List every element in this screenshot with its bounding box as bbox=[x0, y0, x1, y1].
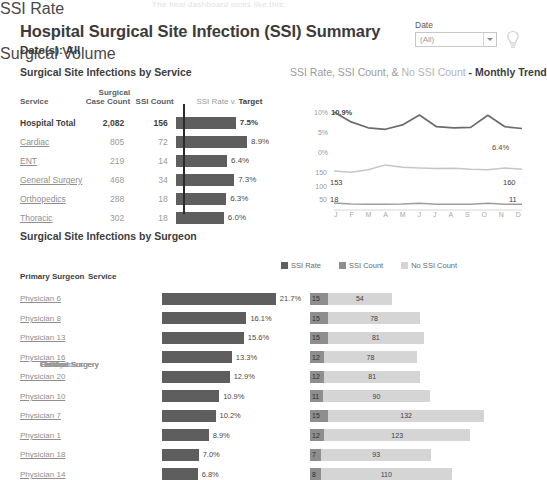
surgeon-rate-bar-cell[interactable]: 7.0% bbox=[162, 445, 310, 465]
ssi-count-label: 15 bbox=[310, 293, 328, 305]
no-ssi-count-segment[interactable]: 93 bbox=[321, 449, 431, 461]
table-row: General Surgery468347.3% bbox=[20, 170, 285, 189]
surgeon-rate-bar[interactable] bbox=[162, 312, 246, 324]
ssi-count-segment[interactable]: 12 bbox=[310, 429, 324, 441]
ssi-count-segment[interactable]: 15 bbox=[310, 312, 328, 324]
month-tick-10: N bbox=[499, 211, 504, 218]
surgeon-rate-bar[interactable] bbox=[162, 429, 209, 441]
ssi-count-segment[interactable]: 15 bbox=[310, 410, 328, 422]
month-tick-7: A bbox=[448, 211, 453, 218]
ssi-count-cell: 18 bbox=[130, 189, 174, 208]
rate-bar-cell[interactable]: 6.3% bbox=[174, 189, 285, 208]
legend-label: SSI Rate bbox=[291, 261, 321, 270]
rate-bar[interactable] bbox=[176, 136, 247, 148]
monthly-trend-chart bbox=[328, 100, 528, 220]
service-name-cell[interactable]: ENT bbox=[20, 151, 84, 170]
rate-bar[interactable] bbox=[176, 117, 236, 129]
no-ssi-count-label: 90 bbox=[323, 390, 430, 402]
surgeon-rate-label: 10.9% bbox=[223, 392, 244, 401]
surgeon-stacked-bar-cell[interactable]: 1554 bbox=[310, 289, 525, 309]
ssi-count-segment[interactable]: 7 bbox=[310, 449, 321, 461]
surgeon-rate-bar-cell[interactable]: 15.6% bbox=[162, 328, 310, 348]
month-tick-0: J bbox=[334, 211, 338, 218]
surgeon-rate-bar[interactable] bbox=[162, 468, 198, 480]
rate-bar-cell[interactable]: 6.0% bbox=[174, 208, 285, 227]
service-table: Service SurgicalCase Count SSI Count SSI… bbox=[20, 88, 285, 227]
rate-value-label: 6.4% bbox=[231, 156, 249, 165]
no-ssi-count-segment[interactable]: 110 bbox=[321, 468, 452, 480]
legend-item-0[interactable]: SSI Rate bbox=[281, 261, 321, 270]
legend-item-1[interactable]: SSI Count bbox=[339, 261, 383, 270]
service-name-cell[interactable]: Orthopedics bbox=[20, 189, 84, 208]
service-name-cell[interactable]: General Surgery bbox=[20, 170, 84, 189]
rate-bar-cell[interactable]: 7.5% bbox=[174, 113, 285, 132]
ssi-count-segment[interactable]: 15 bbox=[310, 293, 328, 305]
surgeon-rate-bar[interactable] bbox=[162, 410, 216, 422]
surgeon-rate-bar[interactable] bbox=[162, 332, 244, 344]
surgeon-rate-bar-cell[interactable]: 21.7% bbox=[162, 289, 310, 309]
surgeon-name-cell[interactable]: Physician 18 bbox=[20, 445, 88, 465]
surgeon-rate-label: 8.9% bbox=[213, 431, 230, 440]
surgeon-stacked-bar-cell[interactable]: 793 bbox=[310, 445, 525, 465]
surgeon-stacked-bar-cell[interactable]: 15132 bbox=[310, 406, 525, 426]
surgeon-rate-bar-cell[interactable]: 16.1% bbox=[162, 309, 310, 329]
month-tick-8: S bbox=[465, 211, 470, 218]
no-ssi-count-segment[interactable]: 78 bbox=[328, 312, 421, 324]
no-ssi-count-segment[interactable]: 81 bbox=[328, 332, 424, 344]
ssi-count-segment[interactable]: 15 bbox=[310, 332, 328, 344]
no-ssi-count-segment[interactable]: 78 bbox=[324, 351, 417, 363]
col-rate-chart-b: Target bbox=[239, 97, 263, 106]
surgeon-rate-bar[interactable] bbox=[162, 390, 219, 402]
surgeon-rate-bar[interactable] bbox=[162, 449, 199, 461]
surgeon-stacked-bar-cell[interactable]: 1190 bbox=[310, 387, 525, 407]
no-ssi-count-segment[interactable]: 90 bbox=[323, 390, 430, 402]
no-ssi-count-segment[interactable]: 132 bbox=[328, 410, 485, 422]
ssi-count-segment[interactable]: 11 bbox=[310, 390, 323, 402]
month-tick-3: A bbox=[383, 211, 388, 218]
surgeon-name-cell[interactable]: Physician 13 bbox=[20, 328, 88, 348]
lightbulb-icon[interactable] bbox=[505, 30, 521, 50]
surgeon-name-cell[interactable]: Physician 14 bbox=[20, 465, 88, 480]
surgeon-rate-bar[interactable] bbox=[162, 293, 276, 305]
surgeon-rate-bar-cell[interactable]: 10.9% bbox=[162, 387, 310, 407]
legend-item-2[interactable]: No SSI Count bbox=[401, 261, 457, 270]
surgeon-name-cell[interactable]: Physician 10 bbox=[20, 387, 88, 407]
surgeon-stacked-bar-cell[interactable]: 1278 bbox=[310, 348, 525, 368]
rate-bar-cell[interactable]: 8.9% bbox=[174, 132, 285, 151]
service-name-cell[interactable]: Cardiac bbox=[20, 132, 84, 151]
case-count-cell: 302 bbox=[84, 208, 130, 227]
date-filter-dropdown[interactable]: (All) bbox=[415, 32, 497, 47]
surgeon-stacked-bar-cell[interactable]: 8110 bbox=[310, 465, 525, 480]
surgeon-name-cell[interactable]: Physician 1 bbox=[20, 426, 88, 446]
surgeon-rate-bar-cell[interactable]: 8.9% bbox=[162, 426, 310, 446]
ssi-count-segment[interactable]: 12 bbox=[310, 371, 324, 383]
surgeon-rate-label: 10.2% bbox=[220, 411, 241, 420]
surgeon-rate-bar-cell[interactable]: 10.2% bbox=[162, 406, 310, 426]
surgeon-stacked-bar-cell[interactable]: 1581 bbox=[310, 328, 525, 348]
rate-bar-cell[interactable]: 6.4% bbox=[174, 151, 285, 170]
col-surgeon-stack bbox=[310, 272, 525, 289]
ssi-count-segment[interactable]: 8 bbox=[310, 468, 321, 480]
service-name-cell[interactable]: Thoracic bbox=[20, 208, 84, 227]
surgeon-name-cell[interactable]: Physician 8 bbox=[20, 309, 88, 329]
chevron-down-icon[interactable] bbox=[483, 33, 496, 46]
no-ssi-count-label: 132 bbox=[328, 410, 485, 422]
ssi-count-label: 15 bbox=[310, 312, 328, 324]
ssi-count-segment[interactable]: 12 bbox=[310, 351, 324, 363]
surgeon-name-cell[interactable]: Physician 7 bbox=[20, 406, 88, 426]
date-filter: Date (All) bbox=[415, 20, 497, 47]
date-filter-value: (All) bbox=[416, 35, 434, 44]
ssi-count-cell: 34 bbox=[130, 170, 174, 189]
surgeon-stacked-bar-cell[interactable]: 1578 bbox=[310, 309, 525, 329]
rate-value-label: 6.3% bbox=[230, 194, 248, 203]
no-ssi-count-segment[interactable]: 123 bbox=[324, 429, 470, 441]
rate-bar[interactable] bbox=[176, 174, 234, 186]
no-ssi-count-segment[interactable]: 54 bbox=[328, 293, 392, 305]
surgeon-rate-bar-cell[interactable]: 6.8% bbox=[162, 465, 310, 480]
no-ssi-count-segment[interactable]: 81 bbox=[324, 371, 420, 383]
surgeon-name-cell[interactable]: Physician 6 bbox=[20, 289, 88, 309]
rate-bar-cell[interactable]: 7.3% bbox=[174, 170, 285, 189]
surgeon-stacked-bar-cell[interactable]: 1281 bbox=[310, 367, 525, 387]
month-tick-5: J bbox=[418, 211, 422, 218]
surgeon-stacked-bar-cell[interactable]: 12123 bbox=[310, 426, 525, 446]
